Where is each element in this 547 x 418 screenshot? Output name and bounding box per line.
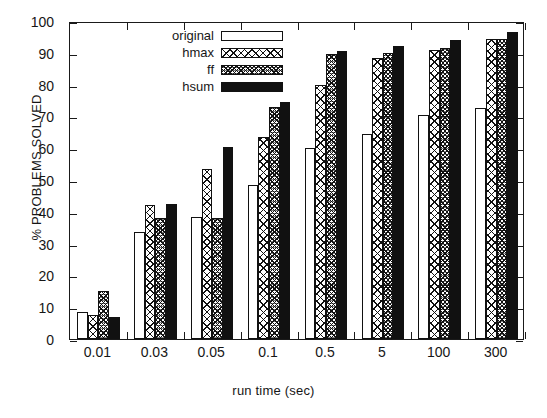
y-axis-tick <box>70 277 77 278</box>
legend-swatch-hsum <box>221 82 283 92</box>
bar-hsum-0.1 <box>280 102 291 339</box>
bar-original-100 <box>418 115 429 339</box>
bar-ff-300 <box>497 39 508 340</box>
legend-label-original: original <box>172 29 221 42</box>
x-axis-tick <box>241 332 242 339</box>
bar-hsum-0.5 <box>337 51 348 339</box>
legend-label-hmax: hmax <box>182 46 221 59</box>
x-axis-tick-label: 0.5 <box>315 344 334 360</box>
bar-original-300 <box>475 108 486 339</box>
bar-hsum-300 <box>507 32 518 339</box>
bar-hmax-0.05 <box>202 169 213 339</box>
y-axis-tick <box>516 23 523 24</box>
legend-item-hmax: hmax <box>97 44 283 61</box>
x-axis-tick <box>468 332 469 339</box>
bar-ff-0.03 <box>155 218 166 339</box>
y-axis-tick-label: 20 <box>0 268 62 284</box>
y-axis-tick <box>70 341 77 342</box>
y-axis-tick <box>70 87 77 88</box>
bar-hsum-5 <box>393 46 404 339</box>
bar-hmax-300 <box>486 39 497 340</box>
y-axis-tick-labels: 0102030405060708090100 <box>0 22 62 340</box>
legend-item-original: original <box>97 27 283 44</box>
x-axis-title: run time (sec) <box>0 383 547 398</box>
bar-hsum-0.01 <box>109 317 120 339</box>
y-axis-tick-label: 60 <box>0 141 62 157</box>
bar-original-0.01 <box>77 312 88 339</box>
bar-hmax-100 <box>429 50 440 339</box>
bar-original-0.05 <box>191 217 202 339</box>
x-axis-tick <box>184 332 185 339</box>
bar-hmax-5 <box>372 58 383 339</box>
bar-hmax-0.1 <box>258 137 269 339</box>
x-axis-tick-label: 5 <box>378 344 386 360</box>
x-axis-tick <box>354 332 355 339</box>
x-axis-tick <box>411 332 412 339</box>
x-axis-tick <box>525 332 526 339</box>
x-axis-tick <box>354 23 355 30</box>
bar-ff-0.05 <box>212 218 223 339</box>
legend: originalhmaxffhsum <box>97 27 283 95</box>
bar-hsum-0.03 <box>166 204 177 339</box>
bar-ff-0.01 <box>98 291 109 339</box>
y-axis-tick <box>70 55 77 56</box>
y-axis-tick <box>70 309 77 310</box>
legend-item-ff: ff <box>97 61 283 78</box>
x-axis-tick <box>298 332 299 339</box>
bar-hmax-0.01 <box>88 315 99 339</box>
bar-original-0.1 <box>248 185 259 339</box>
y-axis-tick-label: 10 <box>0 300 62 316</box>
x-axis-tick-label: 0.01 <box>84 344 111 360</box>
x-axis-tick-label: 0.05 <box>198 344 225 360</box>
y-axis-tick-label: 50 <box>0 173 62 189</box>
y-axis-tick-label: 100 <box>0 14 62 30</box>
bar-original-0.03 <box>134 232 145 339</box>
y-axis-tick-label: 40 <box>0 205 62 221</box>
legend-label-ff: ff <box>207 63 221 76</box>
legend-swatch-ff <box>221 65 283 75</box>
bar-hsum-100 <box>450 40 461 339</box>
y-axis-tick <box>70 246 77 247</box>
bar-ff-0.5 <box>326 54 337 339</box>
bar-ff-0.1 <box>269 107 280 339</box>
x-axis-tick-label: 0.03 <box>141 344 168 360</box>
y-axis-tick <box>70 214 77 215</box>
x-axis-tick-label: 100 <box>427 344 450 360</box>
bar-ff-100 <box>440 48 451 339</box>
x-axis-tick <box>127 332 128 339</box>
y-axis-tick-label: 0 <box>0 332 62 348</box>
x-axis-tick-labels: 0.010.030.050.10.55100300 <box>69 344 524 366</box>
y-axis-tick <box>70 150 77 151</box>
x-axis-tick-label: 300 <box>484 344 507 360</box>
legend-swatch-original <box>221 31 283 41</box>
y-axis-tick <box>70 118 77 119</box>
y-axis-tick <box>516 341 523 342</box>
bar-hmax-0.03 <box>145 205 156 339</box>
legend-swatch-hmax <box>221 48 283 58</box>
y-axis-tick-label: 90 <box>0 46 62 62</box>
y-axis-tick-label: 80 <box>0 78 62 94</box>
x-axis-tick <box>411 23 412 30</box>
x-axis-tick-label: 0.1 <box>258 344 277 360</box>
x-axis-tick <box>468 23 469 30</box>
bar-ff-5 <box>383 53 394 339</box>
bar-hmax-0.5 <box>315 85 326 339</box>
x-axis-tick <box>298 23 299 30</box>
legend-item-hsum: hsum <box>97 78 283 95</box>
y-axis-tick-label: 70 <box>0 109 62 125</box>
x-axis-tick <box>525 23 526 30</box>
bar-chart: % PROBLEMS SOLVED 0102030405060708090100… <box>0 0 547 418</box>
legend-label-hsum: hsum <box>182 80 221 93</box>
bar-original-0.5 <box>305 148 316 339</box>
bar-original-5 <box>362 134 373 339</box>
y-axis-tick-label: 30 <box>0 237 62 253</box>
y-axis-tick <box>70 182 77 183</box>
bar-hsum-0.05 <box>223 147 234 339</box>
y-axis-tick <box>70 23 77 24</box>
